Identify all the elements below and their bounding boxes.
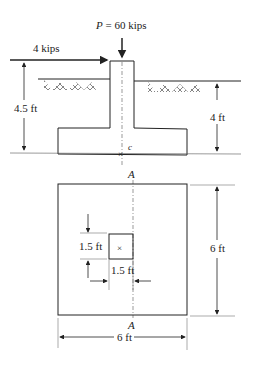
column-height-label: 1.5 ft (79, 240, 102, 252)
footing-plan-outline (58, 184, 187, 315)
footing-diagram: P = 60 kips 4 kips × c 4.5 ft 4 ft A (0, 0, 256, 367)
soil-hatch-right-icon (148, 82, 202, 92)
height-left-label: 4.5 ft (14, 102, 37, 114)
axial-load-label: P = 60 kips (95, 19, 147, 31)
elevation-view: P = 60 kips 4 kips × c 4.5 ft 4 ft (10, 19, 241, 165)
section-label-bottom: A (127, 319, 135, 331)
soil-hatch-left-icon (44, 80, 96, 90)
depth-right-label: 4 ft (210, 111, 225, 123)
column-width-label: 1.5 ft (111, 264, 134, 276)
column-center-mark-icon: × (117, 243, 122, 253)
lateral-load-label: 4 kips (33, 42, 60, 54)
base-reference-line (10, 153, 241, 154)
centroid-mark-icon: × (118, 149, 123, 159)
centroid-label: c (128, 142, 132, 152)
footing-width-label: 6 ft (117, 331, 132, 343)
plan-view: A A × 1.5 ft 1.5 ft 6 ft 6 ft (58, 168, 235, 350)
footing-elevation-outline (58, 61, 187, 155)
section-label-top: A (127, 168, 135, 180)
footing-height-label: 6 ft (210, 242, 225, 254)
